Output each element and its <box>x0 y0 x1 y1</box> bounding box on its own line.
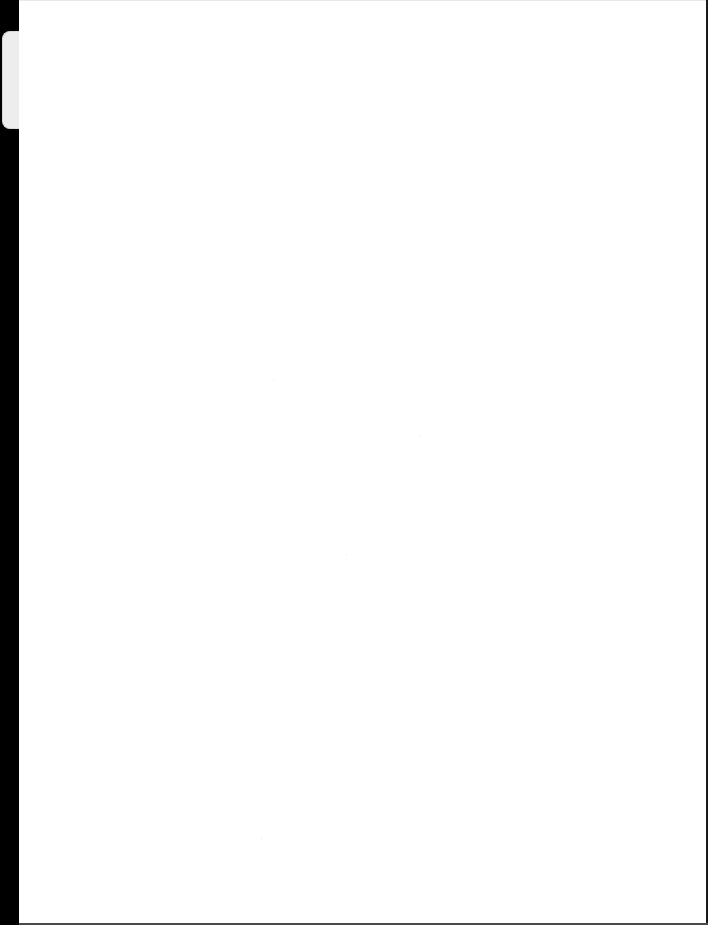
scan-speck <box>273 379 274 380</box>
scan-speck <box>261 838 262 839</box>
scan-speck <box>346 554 347 555</box>
blank-page <box>19 0 706 924</box>
scan-speck <box>420 436 421 437</box>
